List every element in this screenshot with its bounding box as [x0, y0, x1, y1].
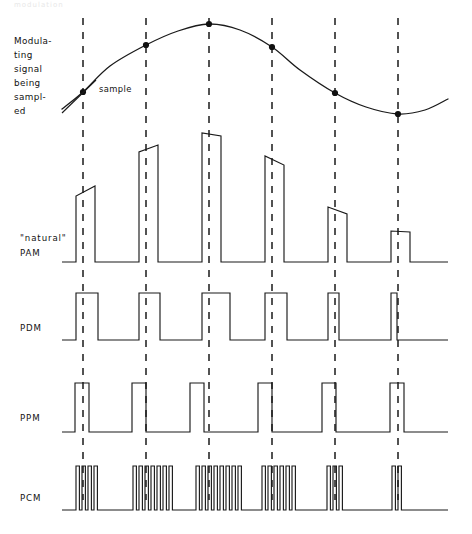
caption-line-5: sampl- — [14, 92, 46, 102]
pcm-waveform-group — [62, 466, 448, 510]
sample-dot-2 — [143, 42, 149, 48]
sample-dot-5 — [332, 90, 338, 96]
sample-dot-4 — [269, 44, 275, 50]
caption-line-1: Modula- — [14, 36, 52, 46]
ppm-waveform-group — [62, 383, 448, 432]
caption-line-3: signal — [14, 64, 42, 74]
waveform-diagram: Modula- ting signal being sampl- ed samp… — [0, 0, 472, 534]
sample-leader-line — [62, 80, 96, 113]
pam-axis-label: "natural" PAM — [20, 233, 67, 258]
pam-waveform-group — [62, 133, 448, 262]
ppm-trace — [62, 383, 448, 432]
pulse-modulation-figure: modulation Modula- ting signal being sam… — [0, 0, 472, 534]
sample-dot-group — [80, 21, 401, 117]
pam-label-line-1: "natural" — [20, 233, 67, 243]
faint-page-header: modulation — [14, 1, 64, 9]
pcm-trace — [62, 466, 448, 510]
modulating-signal-curve — [62, 24, 448, 114]
pam-label-line-2: PAM — [20, 248, 41, 258]
ppm-axis-label: PPM — [20, 413, 40, 423]
pdm-trace — [62, 293, 448, 340]
sample-dot-3 — [206, 21, 212, 27]
caption-line-2: ting — [14, 50, 33, 60]
pam-trace — [62, 133, 448, 262]
modulating-signal-group — [62, 21, 448, 117]
sample-annotation-label: sample — [99, 84, 132, 94]
pdm-axis-label: PDM — [20, 323, 42, 333]
modulating-signal-caption: Modula- ting signal being sampl- ed — [14, 36, 52, 116]
pcm-axis-label: PCM — [20, 493, 41, 503]
caption-line-6: ed — [14, 106, 26, 116]
pdm-waveform-group — [62, 293, 448, 340]
sample-dot-6 — [395, 111, 401, 117]
caption-line-4: being — [14, 78, 41, 88]
